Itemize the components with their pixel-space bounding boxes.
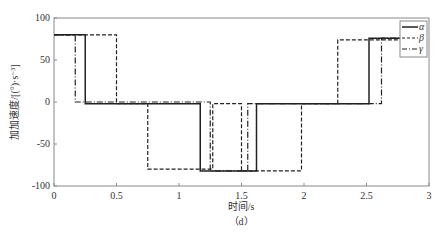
legend-beta: β xyxy=(418,32,424,43)
caption: （d） xyxy=(229,216,254,227)
legend: α β γ xyxy=(400,21,427,57)
svg-text:1: 1 xyxy=(177,190,182,201)
svg-text:2: 2 xyxy=(302,190,307,201)
svg-text:0: 0 xyxy=(45,96,50,107)
svg-text:-50: -50 xyxy=(37,138,50,149)
x-axis-label: 时间/s xyxy=(228,200,255,212)
series-2 xyxy=(54,35,404,171)
svg-text:100: 100 xyxy=(35,12,50,23)
y-axis-label: 加加速度/[(°)·s⁻³] xyxy=(8,64,21,139)
svg-text:3: 3 xyxy=(427,190,432,201)
legend-alpha: α xyxy=(419,21,425,32)
chart: 00.511.522.53100500-50-100 α β γ 时间/s （d… xyxy=(0,0,443,237)
series-0 xyxy=(54,35,404,171)
series-1 xyxy=(54,35,404,171)
svg-text:0: 0 xyxy=(52,190,57,201)
svg-text:0.5: 0.5 xyxy=(110,190,123,201)
svg-text:1.5: 1.5 xyxy=(235,190,248,201)
svg-text:50: 50 xyxy=(40,54,50,65)
svg-text:2.5: 2.5 xyxy=(360,190,373,201)
svg-text:-100: -100 xyxy=(32,180,50,191)
